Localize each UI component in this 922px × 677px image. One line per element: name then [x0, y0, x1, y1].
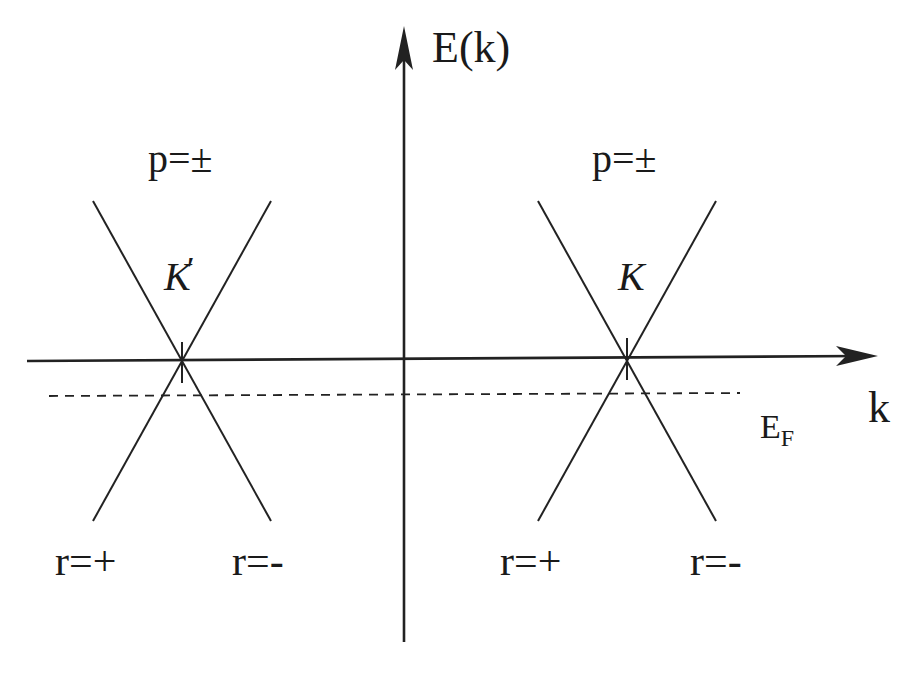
- momentum-axis-label: k: [868, 383, 890, 432]
- pseudospin-label-left: p=±: [148, 136, 213, 181]
- energy-axis-label: E(k): [432, 23, 510, 72]
- k-prime-label: K′: [163, 250, 195, 299]
- band-structure-diagram: E(k) k EF p=± K′ r=+ r=- p=± K r=+ r=-: [0, 0, 922, 677]
- k-prime-mark: ′: [187, 250, 195, 290]
- energy-axis: [395, 26, 413, 642]
- fermi-level-subscript: F: [781, 425, 794, 451]
- branch-label-right-minus: r=-: [690, 538, 742, 584]
- branch-label-left-minus: r=-: [232, 538, 284, 584]
- branch-label-right-plus: r=+: [500, 538, 561, 584]
- branch-label-left-plus: r=+: [55, 538, 116, 584]
- k-label: K: [617, 254, 647, 299]
- pseudospin-label-right: p=±: [592, 136, 657, 181]
- fermi-level-main: E: [760, 408, 781, 445]
- fermi-level-line: [49, 393, 740, 396]
- momentum-axis: [27, 346, 878, 366]
- fermi-level-label: EF: [760, 408, 794, 451]
- dirac-cone-k: [538, 201, 716, 521]
